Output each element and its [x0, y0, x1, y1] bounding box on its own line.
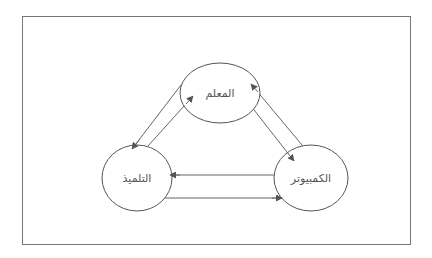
interaction-triangle-diagram: المعلم التلميذ الكمبيوتر — [0, 0, 432, 258]
node-computer-label: الكمبيوتر — [290, 172, 331, 185]
node-teacher: المعلم — [180, 63, 260, 123]
diagram-frame — [23, 17, 411, 245]
node-computer: الكمبيوتر — [274, 145, 348, 211]
node-teacher-label: المعلم — [205, 87, 234, 100]
node-student-label: التلميذ — [123, 172, 152, 185]
node-student: التلميذ — [102, 145, 172, 211]
